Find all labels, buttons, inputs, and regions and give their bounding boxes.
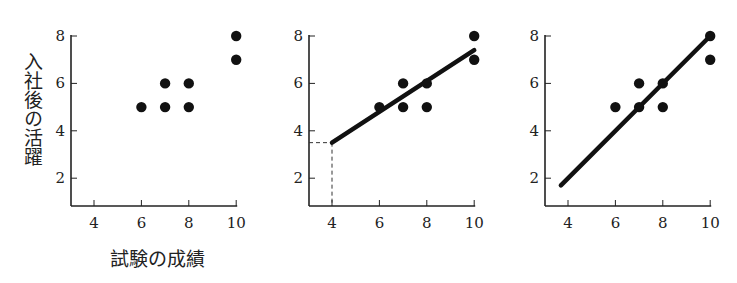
y-tick-label: 6: [293, 74, 303, 92]
regression-line: [332, 50, 474, 142]
y-tick-label: 2: [529, 169, 539, 187]
data-point: [398, 78, 408, 88]
y-axis-label: 入社後の活躍: [20, 52, 42, 166]
scatter-panel-3: 246846810: [529, 27, 719, 232]
data-point: [422, 102, 432, 112]
data-point: [184, 78, 194, 88]
x-tick-label: 10: [701, 214, 720, 232]
x-tick-label: 4: [89, 214, 99, 232]
data-point: [658, 102, 668, 112]
data-point: [610, 102, 620, 112]
data-point: [705, 55, 715, 65]
y-tick-label: 8: [529, 27, 539, 45]
y-tick-label: 8: [293, 27, 303, 45]
x-tick-label: 10: [227, 214, 246, 232]
x-tick-label: 6: [611, 214, 621, 232]
y-tick-label: 2: [293, 169, 303, 187]
data-point: [231, 55, 241, 65]
scatter-panel-1: 246846810: [55, 27, 245, 232]
y-tick-label: 4: [55, 122, 65, 140]
y-tick-label: 6: [529, 74, 539, 92]
x-tick-label: 8: [658, 214, 668, 232]
x-tick-label: 6: [137, 214, 147, 232]
x-axis-label: 試験の成績: [110, 244, 205, 271]
y-tick-label: 2: [55, 169, 65, 187]
data-point: [160, 102, 170, 112]
scatter-panel-2: 246846810: [293, 27, 483, 232]
x-tick-label: 4: [563, 214, 573, 232]
data-point: [136, 102, 146, 112]
x-tick-label: 8: [184, 214, 194, 232]
x-tick-label: 8: [422, 214, 432, 232]
x-tick-label: 10: [465, 214, 484, 232]
data-point: [398, 102, 408, 112]
data-point: [231, 31, 241, 41]
y-tick-label: 4: [293, 122, 303, 140]
data-point: [160, 78, 170, 88]
data-point: [469, 31, 479, 41]
x-tick-label: 6: [375, 214, 385, 232]
y-tick-label: 6: [55, 74, 65, 92]
regression-line: [561, 36, 710, 185]
y-tick-label: 4: [529, 122, 539, 140]
data-point: [634, 78, 644, 88]
data-point: [469, 55, 479, 65]
y-tick-label: 8: [55, 27, 65, 45]
data-point: [184, 102, 194, 112]
x-tick-label: 4: [327, 214, 337, 232]
scatter-plots: 246846810246846810246846810: [0, 0, 737, 283]
